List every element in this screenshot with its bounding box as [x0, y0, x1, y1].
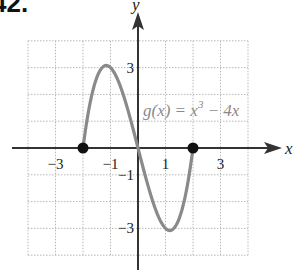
x-tick-label: 3 — [217, 156, 225, 172]
x-axis-label: x — [284, 139, 293, 158]
y-tick-label: −3 — [118, 220, 134, 236]
x-tick-label: −3 — [48, 156, 64, 172]
y-tick-label: 3 — [127, 60, 135, 76]
y-axis-label: y — [130, 0, 140, 14]
closed-endpoint — [188, 143, 199, 154]
function-label: g(x) = x3 − 4x — [143, 98, 240, 120]
closed-endpoint — [78, 143, 89, 154]
x-tick-label: −1 — [103, 156, 119, 172]
function-graph: xy −3−1133−1−3 g(x) = x3 − 4x — [0, 0, 294, 274]
x-tick-label: 1 — [162, 156, 170, 172]
y-tick-label: −1 — [118, 167, 134, 183]
